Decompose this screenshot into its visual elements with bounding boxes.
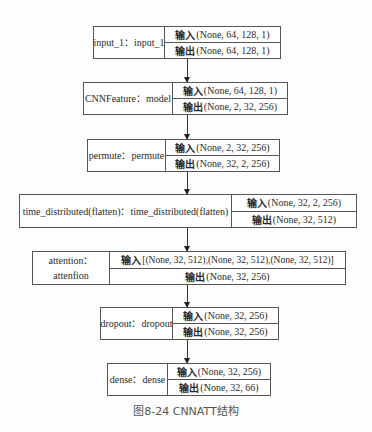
node-input-shape: 输入(None, 64, 128, 1) <box>173 83 287 99</box>
node-name: permute：permute <box>88 140 166 171</box>
node-output-shape: 输出(None, 32, 512) <box>232 212 356 228</box>
node-input-shape: 输入(None, 32, 256) <box>168 364 270 380</box>
node-input-shape: 输入(None, 32, 256) <box>173 308 278 324</box>
node-dense: dense：dense 输入(None, 32, 256) 输出(None, 3… <box>107 363 271 396</box>
node-input-shape: 输入(None, 2, 32, 256) <box>166 140 279 156</box>
node-name: dropout：dropout <box>101 308 173 339</box>
node-attention: attention： attenfion 输入[(None, 32, 512),… <box>32 251 346 285</box>
node-output-shape: 输出(None, 32, 2, 256) <box>166 156 279 171</box>
node-input-1: input_1：input_1 输入(None, 64, 128, 1) 输出(… <box>93 26 281 59</box>
node-name: time_distributed(flatten)：time_distribut… <box>20 195 232 227</box>
node-dropout: dropout：dropout 输入(None, 32, 256) 输出(Non… <box>100 307 279 340</box>
arrow-edge <box>187 228 188 251</box>
figure-caption: 图8-24 CNNATT结构 <box>0 402 372 418</box>
arrow-edge <box>187 115 188 139</box>
node-time-distributed: time_distributed(flatten)：time_distribut… <box>19 194 357 228</box>
arrow-edge <box>187 340 188 363</box>
node-input-shape: 输入(None, 32, 2, 256) <box>232 195 356 212</box>
node-output-shape: 输出(None, 32, 66) <box>168 380 270 395</box>
arrow-edge <box>187 59 188 82</box>
node-name: attention： attenfion <box>33 252 110 284</box>
arrow-edge <box>187 285 188 307</box>
node-output-shape: 输出(None, 2, 32, 256) <box>173 99 287 114</box>
node-name: CNNFeature：model <box>84 83 173 114</box>
node-output-shape: 输出(None, 64, 128, 1) <box>165 43 280 58</box>
arrow-edge <box>187 172 188 194</box>
node-permute: permute：permute 输入(None, 2, 32, 256) 输出(… <box>87 139 280 172</box>
node-name: dense：dense <box>108 364 168 395</box>
node-output-shape: 输出(None, 32, 256) <box>110 269 345 285</box>
node-name: input_1：input_1 <box>94 27 165 58</box>
node-output-shape: 输出(None, 32, 256) <box>173 324 278 339</box>
node-input-shape: 输入[(None, 32, 512),(None, 32, 512),(None… <box>110 252 345 269</box>
node-input-shape: 输入(None, 64, 128, 1) <box>165 27 280 43</box>
node-cnnfeature: CNNFeature：model 输入(None, 64, 128, 1) 输出… <box>83 82 288 115</box>
